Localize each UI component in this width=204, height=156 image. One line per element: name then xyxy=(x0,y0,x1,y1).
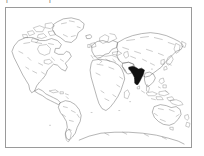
region-tasmania xyxy=(170,127,173,130)
region-antarctic-peninsula xyxy=(65,129,71,142)
caption-fragment-left: | xyxy=(6,0,8,2)
region-africa xyxy=(90,59,125,110)
region-antarctica xyxy=(79,132,184,144)
region-central-america xyxy=(35,89,61,105)
region-scandinavia xyxy=(100,34,117,44)
region-australia-detail xyxy=(154,109,179,122)
region-north-america-detail xyxy=(19,43,64,75)
world-map-svg xyxy=(6,8,191,147)
region-hudson-bay xyxy=(38,44,51,55)
caption-fragment-right: | xyxy=(49,0,51,2)
region-philippines xyxy=(158,78,167,92)
region-sri-lanka xyxy=(138,86,140,89)
region-greenland-inlets xyxy=(61,21,80,37)
region-new-zealand xyxy=(185,114,190,127)
region-black-caspian-sea xyxy=(113,51,129,58)
region-south-america-detail xyxy=(62,107,79,131)
region-indonesia xyxy=(142,91,175,101)
region-southeast-asia xyxy=(145,72,156,87)
region-iceland xyxy=(86,35,92,39)
region-europe xyxy=(92,41,118,59)
region-japan xyxy=(164,55,173,70)
region-greenland xyxy=(52,18,84,43)
region-new-guinea xyxy=(170,100,183,106)
region-madagascar xyxy=(125,90,130,99)
figure-root: | | xyxy=(0,0,204,156)
region-antarctica-detail xyxy=(105,132,166,139)
map-frame xyxy=(5,7,192,148)
region-great-lakes xyxy=(45,59,53,64)
region-asia xyxy=(117,33,183,77)
cropped-caption-strip: | | xyxy=(0,0,204,5)
region-arctic-islands xyxy=(23,23,56,43)
region-north-america xyxy=(12,38,71,93)
